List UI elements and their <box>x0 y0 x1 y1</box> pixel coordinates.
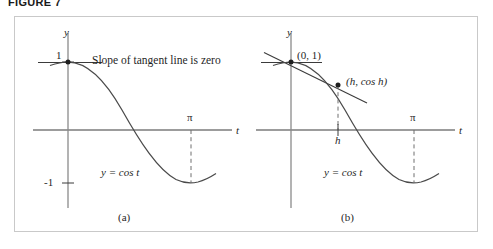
figure-page: FIGURE 7 <box>0 0 493 249</box>
panel-a-curve-label: y = cos t <box>101 167 139 178</box>
panel-b-origin-point <box>289 60 294 65</box>
panel-a-tick-one-label: 1 <box>56 50 62 61</box>
panel-a-max-point <box>66 60 71 65</box>
panel-a-tangent-annotation: Slope of tangent line is zero <box>92 55 221 67</box>
figure-graphics <box>0 0 493 249</box>
panel-b-h-point-label: (h, cos h) <box>346 76 387 87</box>
panel-b-pi-label: π <box>410 112 416 123</box>
panel-b-curve-label: y = cos t <box>324 167 362 178</box>
panel-a-tick-neg-one-label: -1 <box>44 177 53 188</box>
panel-a-pi-label: π <box>187 112 193 123</box>
panel-a-y-axis-label: y <box>64 27 69 38</box>
panel-a-caption: (a) <box>118 212 130 223</box>
panel-b-origin-point-label: (0, 1) <box>297 50 321 61</box>
panel-b-t-axis-label: t <box>459 125 462 136</box>
panel-b-caption: (b) <box>341 212 354 223</box>
panel-a-t-axis-label: t <box>236 125 239 136</box>
panel-b-h-label: h <box>335 135 341 146</box>
panel-b-y-axis-label: y <box>287 27 292 38</box>
panel-b-graphics <box>256 33 455 208</box>
panel-b-h-point <box>336 83 341 88</box>
